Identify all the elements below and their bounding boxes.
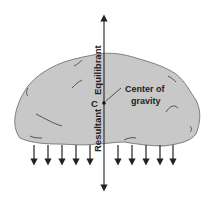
center-of-gravity-dot — [102, 101, 106, 105]
equilibrant-label: Equilibrant — [92, 45, 103, 95]
center-of-gravity-label-line1: Center of — [125, 84, 166, 94]
c-point-label: C — [91, 98, 98, 109]
resultant-label: Resultant — [92, 108, 103, 152]
diagram-canvas: Equilibrant Resultant C Center of gravit… — [0, 0, 209, 204]
center-of-gravity-label-line2: gravity — [131, 96, 161, 106]
